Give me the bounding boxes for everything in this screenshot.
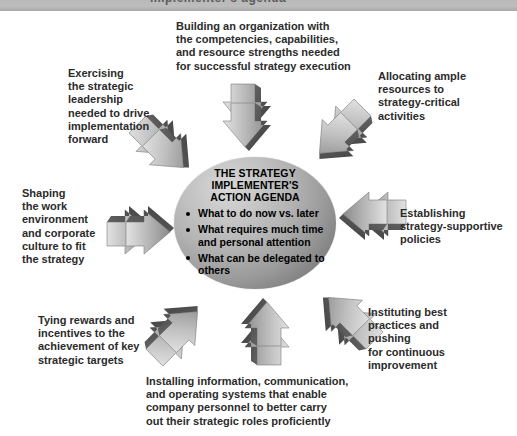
center-bullet-list: What to do now vs. later What requires m… <box>185 207 333 280</box>
label-middle-left: Shaping the work environment and corpora… <box>22 187 127 266</box>
label-top-right: Allocating ample resources to strategy-c… <box>378 70 503 123</box>
arrow-up <box>223 293 289 365</box>
label-bottom-center: Installing information, communication, a… <box>146 375 376 428</box>
arrow-down <box>223 84 289 156</box>
page-header-bar: implementer's agenda <box>0 0 517 11</box>
list-item: What to do now vs. later <box>185 207 333 219</box>
center-sphere-content: THE STRATEGY IMPLEMENTER'S ACTION AGENDA… <box>174 157 336 289</box>
label-bottom-left: Tying rewards and incentives to the achi… <box>38 314 163 367</box>
label-top-left: Exercising the strategic leadership need… <box>68 67 178 146</box>
center-sphere: THE STRATEGY IMPLEMENTER'S ACTION AGENDA… <box>174 157 336 289</box>
list-item: What requires much time and personal att… <box>185 223 333 248</box>
label-middle-right: Establishing strategy-supportive policie… <box>400 207 512 247</box>
diagram-canvas: implementer's agenda <box>0 0 517 436</box>
center-title: THE STRATEGY IMPLEMENTER'S ACTION AGENDA <box>174 168 336 203</box>
label-bottom-right: Instituting best practices and pushing f… <box>368 306 488 372</box>
list-item: What can be delegated to others <box>185 252 333 277</box>
label-top-center: Building an organization with the compet… <box>176 20 376 73</box>
header-clipped-text: implementer's agenda <box>150 0 286 5</box>
